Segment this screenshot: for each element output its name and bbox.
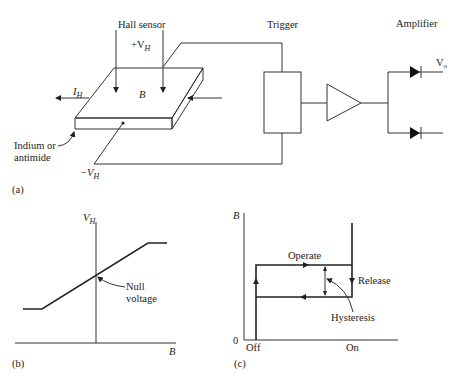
hysteresis-pointer	[327, 279, 353, 312]
origin-label: 0	[233, 335, 238, 346]
material-label-1: Indium or	[14, 140, 56, 151]
material-pointer	[58, 132, 74, 146]
diode-bottom	[410, 127, 421, 139]
y-axis-label: VH	[83, 212, 96, 226]
hall-effect-diagram: Hall sensor +VH B IH −VH Indium or antim…	[0, 0, 460, 378]
caption-c: (c)	[234, 358, 246, 370]
minus-vh-label: −VH	[80, 167, 101, 181]
amplifier-symbol	[327, 84, 361, 121]
hall-sensor-label: Hall sensor	[118, 19, 166, 30]
plus-vh-label: +VH	[131, 39, 152, 53]
null-label-1: Null	[126, 281, 145, 292]
vo-label: Vo	[436, 57, 448, 70]
caption-a: (a)	[12, 184, 24, 196]
panel-c: B 0 Off On Operate Release Hysteresis (c…	[233, 210, 398, 370]
b-label: B	[139, 89, 146, 100]
caption-b: (b)	[12, 358, 25, 370]
y-axis-label: B	[233, 210, 240, 221]
off-label: Off	[246, 342, 261, 353]
x-axis-label: B	[169, 346, 176, 357]
null-voltage-pointer	[98, 277, 125, 287]
material-label-2: antimide	[14, 152, 51, 163]
null-label-2: voltage	[126, 293, 157, 304]
diode-top	[410, 66, 421, 78]
panel-a: Hall sensor +VH B IH −VH Indium or antim…	[12, 18, 448, 196]
trigger-block	[264, 72, 301, 133]
operate-label: Operate	[288, 250, 322, 261]
amplifier-label: Amplifier	[396, 18, 438, 29]
trigger-label: Trigger	[267, 19, 299, 30]
panel-b: VH B Null voltage (b)	[12, 212, 176, 370]
release-label: Release	[358, 275, 391, 286]
on-label: On	[346, 342, 360, 353]
hysteresis-label: Hysteresis	[331, 312, 375, 323]
